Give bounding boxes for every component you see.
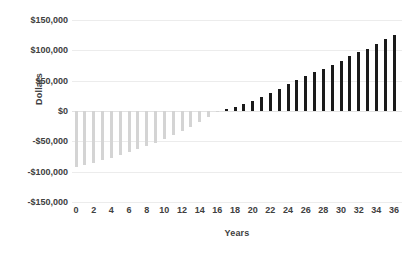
bar <box>234 107 237 111</box>
bar <box>75 111 78 167</box>
bar <box>189 111 192 127</box>
y-axis-tick-label: -$50,000 <box>6 137 68 146</box>
bar <box>251 101 254 111</box>
x-axis-tick-label: 36 <box>384 205 404 215</box>
bar <box>128 111 131 152</box>
bar <box>154 111 157 143</box>
x-axis-title: Years <box>72 228 402 238</box>
bar <box>101 111 104 160</box>
bars-group <box>72 20 402 202</box>
bar <box>216 111 219 112</box>
bar <box>269 93 272 111</box>
y-axis-tick-label: $100,000 <box>6 46 68 55</box>
bar <box>198 111 201 122</box>
y-axis-tick-label: -$100,000 <box>6 168 68 177</box>
bar <box>278 89 281 111</box>
bar <box>340 61 343 111</box>
plot-area <box>72 20 402 202</box>
bar <box>110 111 113 158</box>
bar <box>295 80 298 111</box>
bar <box>366 49 369 111</box>
bar <box>393 35 396 111</box>
bar <box>304 76 307 111</box>
bar <box>145 111 148 146</box>
chart-container: Dollars $150,000$100,000$50,000$0-$50,00… <box>0 0 415 254</box>
bar <box>242 104 245 111</box>
x-axis-tick-labels: 024681012141618202224262830323436 <box>72 205 402 219</box>
bar <box>287 84 290 111</box>
bar <box>375 44 378 111</box>
bar <box>83 111 86 165</box>
gridline <box>72 202 402 203</box>
bar <box>172 111 175 135</box>
bar <box>322 69 325 111</box>
bar <box>207 111 210 117</box>
bar <box>225 109 228 111</box>
bar <box>260 97 263 111</box>
bar <box>313 72 316 111</box>
bar <box>136 111 139 149</box>
bar <box>181 111 184 131</box>
y-axis-tick-label: $50,000 <box>6 77 68 86</box>
bar <box>92 111 95 163</box>
bar <box>384 39 387 111</box>
bar <box>357 52 360 111</box>
bar <box>331 65 334 111</box>
bar <box>163 111 166 139</box>
y-axis-tick-label: $0 <box>6 107 68 116</box>
y-axis-tick-label: $150,000 <box>6 16 68 25</box>
bar <box>119 111 122 155</box>
y-axis-tick-label: -$150,000 <box>6 198 68 207</box>
bar <box>348 56 351 111</box>
